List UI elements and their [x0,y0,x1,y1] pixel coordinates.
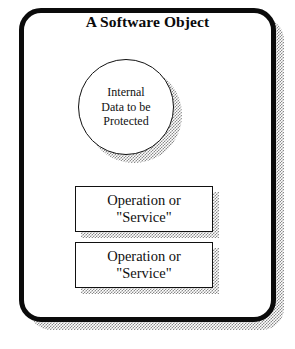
operation-box: Operation or "Service" [75,242,213,288]
operation-line-2: "Service" [107,209,181,226]
software-object-diagram: A Software Object Internal Data to be Pr… [0,0,295,349]
operation-label: Operation or "Service" [107,192,181,226]
internal-data-label: Internal Data to be Protected [101,85,150,129]
operation-line-2: "Service" [107,265,181,282]
operation-label: Operation or "Service" [107,248,181,282]
internal-data-line-2: Data to be [101,100,150,115]
internal-data-node: Internal Data to be Protected [78,59,182,163]
operation-line-1: Operation or [107,248,181,265]
page-title: A Software Object [0,13,295,31]
operation-line-1: Operation or [107,192,181,209]
internal-data-line-3: Protected [101,114,150,129]
operation-node: Operation or "Service" [75,186,219,238]
internal-data-line-1: Internal [101,85,150,100]
operation-box: Operation or "Service" [75,186,213,232]
operation-node: Operation or "Service" [75,242,219,294]
internal-data-circle: Internal Data to be Protected [78,59,174,155]
